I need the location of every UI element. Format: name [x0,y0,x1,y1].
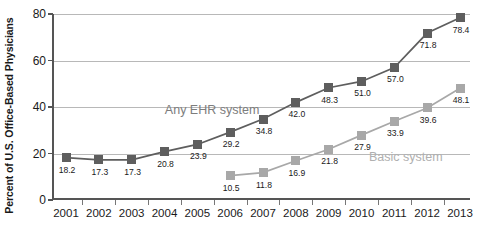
x-tick-label: 2012 [414,207,440,219]
data-point-label: 21.8 [321,156,338,166]
x-tick-mark [148,200,149,205]
x-tick-mark [82,200,83,205]
x-tick-label: 2010 [349,207,375,219]
data-point-marker [291,98,300,107]
y-tick-label: 60 [33,54,46,68]
data-point-marker [357,77,366,86]
data-point-label: 17.3 [91,167,108,177]
data-point-label: 48.1 [453,95,470,105]
x-tick-mark [444,200,445,205]
data-point-label: 71.8 [420,40,437,50]
data-point-label: 20.8 [157,159,174,169]
y-axis-title: Percent of U.S. Office-Based Physicians [0,0,18,231]
data-point-marker [127,155,136,164]
data-point-label: 34.8 [256,126,273,136]
ehr-adoption-line-chart: Percent of U.S. Office-Based Physicians … [0,0,489,231]
series-annotation-any-ehr: Any EHR system [165,103,259,117]
x-tick-label: 2007 [250,207,276,219]
x-tick-label: 2004 [152,207,178,219]
x-tick-mark [345,200,346,205]
x-tick-mark [411,200,412,205]
series-line-any-ehr [66,18,460,160]
data-point-label: 57.0 [387,74,404,84]
data-point-marker [456,13,465,22]
x-tick-label: 2011 [382,207,407,219]
x-tick-label: 2006 [217,207,243,219]
data-point-marker [226,128,235,137]
data-point-label: 23.9 [190,151,207,161]
data-point-label: 17.3 [124,167,141,177]
x-tick-mark [279,200,280,205]
data-point-label: 18.2 [59,165,76,175]
x-tick-label: 2005 [185,207,211,219]
data-point-label: 16.9 [288,168,305,178]
x-tick-label: 2008 [283,207,309,219]
y-tick-label: 80 [33,7,46,21]
data-point-marker [423,29,432,38]
data-point-marker [193,140,202,149]
x-tick-label: 2001 [53,207,79,219]
data-point-marker [226,171,235,180]
data-point-marker [259,115,268,124]
plot-area: 020406080 200120022003200420052006200720… [52,14,470,200]
data-point-marker [94,155,103,164]
x-tick-mark [181,200,182,205]
data-point-label: 33.9 [387,128,404,138]
series-annotation-basic: Basic system [369,150,443,164]
y-tick-label: 0 [39,193,46,207]
data-point-label: 39.6 [420,115,437,125]
x-tick-label: 2013 [447,207,473,219]
data-point-label: 11.8 [256,180,272,190]
data-point-marker [291,156,300,165]
data-point-marker [357,131,366,140]
data-point-label: 10.5 [223,183,240,193]
x-tick-mark [247,200,248,205]
data-point-marker [259,168,268,177]
data-point-marker [324,145,333,154]
data-point-marker [324,83,333,92]
y-tick-label: 40 [33,100,46,114]
data-point-label: 48.3 [321,95,338,105]
data-point-label: 29.2 [223,139,240,149]
data-point-marker [390,63,399,72]
data-point-label: 51.0 [354,88,371,98]
x-tick-label: 2003 [119,207,145,219]
x-tick-mark [115,200,116,205]
data-point-marker [160,147,169,156]
x-tick-mark [312,200,313,205]
x-tick-label: 2002 [86,207,112,219]
data-point-label: 42.0 [288,109,305,119]
y-tick-label: 20 [33,147,46,161]
data-point-label: 78.4 [453,25,470,35]
data-point-marker [456,84,465,93]
x-tick-mark [214,200,215,205]
x-tick-label: 2009 [316,207,342,219]
x-tick-mark [378,200,379,205]
data-point-marker [62,153,71,162]
data-point-marker [390,117,399,126]
data-point-marker [423,103,432,112]
